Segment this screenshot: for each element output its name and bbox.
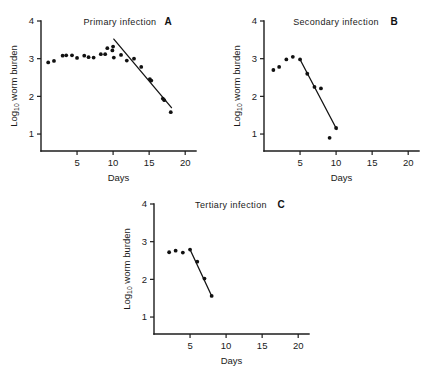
data-point: [174, 249, 178, 253]
x-tick-label-20: 20: [403, 157, 414, 168]
y-axis-title: Log10 worm burden: [8, 45, 20, 127]
regression-line: [190, 250, 212, 296]
y-tick-label-3: 3: [142, 236, 147, 247]
x-tick-label-5: 5: [187, 340, 192, 351]
x-tick-label-10: 10: [221, 340, 232, 351]
data-point: [328, 136, 332, 140]
x-tick-label-5: 5: [297, 157, 302, 168]
data-point: [291, 55, 295, 59]
x-tick-label-20: 20: [293, 340, 304, 351]
data-point: [70, 53, 74, 57]
panel-title-c: Tertiary infection: [195, 200, 267, 210]
data-point: [64, 53, 68, 57]
figure-panels: 12345101520DaysLog10 worm burdenPrimary …: [0, 0, 430, 366]
data-point: [313, 85, 317, 89]
data-point: [125, 59, 129, 63]
regression-line: [300, 59, 337, 129]
data-point: [119, 53, 123, 57]
data-point: [99, 52, 103, 56]
x-axis-title: Days: [331, 172, 353, 183]
y-tick-label-2: 2: [252, 91, 257, 102]
x-tick-label-15: 15: [257, 340, 268, 351]
data-point: [188, 248, 192, 252]
y-tick-label-4: 4: [252, 15, 257, 26]
panel-a-plot: 12345101520DaysLog10 worm burdenPrimary …: [0, 0, 215, 183]
y-axis-title: Log10 worm burden: [121, 228, 133, 310]
y-tick-label-3: 3: [29, 53, 34, 64]
x-tick-label-15: 15: [144, 157, 155, 168]
y-tick-label-4: 4: [142, 198, 147, 209]
y-tick-label-3: 3: [252, 53, 257, 64]
data-point: [111, 45, 115, 49]
panel-title-a: Primary infection: [84, 17, 157, 27]
x-tick-label-15: 15: [367, 157, 378, 168]
data-point: [61, 54, 65, 58]
data-point: [112, 56, 116, 60]
y-axis-title: Log10 worm burden: [231, 45, 243, 127]
panel-a-primary-infection: 12345101520DaysLog10 worm burdenPrimary …: [0, 0, 215, 183]
data-point: [305, 72, 309, 76]
data-point: [149, 79, 153, 83]
data-point: [169, 110, 173, 114]
panel-c-tertiary-infection: 12345101520DaysLog10 worm burdenTertiary…: [113, 183, 328, 366]
y-tick-label-2: 2: [142, 274, 147, 285]
panel-b-secondary-infection: 12345101520DaysLog10 worm burdenSecondar…: [228, 0, 430, 183]
data-point: [167, 250, 171, 254]
x-tick-label-5: 5: [74, 157, 79, 168]
data-point: [52, 59, 56, 63]
y-tick-label-4: 4: [29, 15, 34, 26]
x-axis-title: Days: [221, 355, 243, 366]
data-point: [319, 87, 323, 91]
data-point: [110, 48, 114, 52]
y-axis-title-log: Log: [121, 294, 132, 310]
x-tick-label-10: 10: [331, 157, 342, 168]
data-point: [87, 55, 91, 59]
data-point: [203, 277, 207, 281]
data-point: [139, 65, 143, 69]
data-point: [75, 56, 79, 60]
y-tick-label-1: 1: [252, 128, 257, 139]
data-point: [92, 56, 96, 60]
data-point: [181, 251, 185, 255]
y-tick-label-2: 2: [29, 91, 34, 102]
data-point: [195, 260, 199, 264]
data-point: [271, 68, 275, 72]
panel-letter-a: A: [164, 16, 171, 27]
data-point: [210, 294, 214, 298]
y-tick-label-1: 1: [142, 311, 147, 322]
y-axis-title-rest: worm burden: [231, 45, 242, 103]
y-axis-title-rest: worm burden: [8, 45, 19, 103]
panel-title-b: Secondary infection: [293, 17, 379, 27]
data-point: [277, 65, 281, 69]
x-tick-label-10: 10: [108, 157, 119, 168]
data-point: [82, 54, 86, 58]
data-point: [162, 98, 166, 102]
panel-c-plot: 12345101520DaysLog10 worm burdenTertiary…: [113, 183, 328, 366]
data-point: [103, 52, 107, 56]
y-axis-title-log: Log: [231, 111, 242, 127]
data-point: [334, 126, 338, 130]
data-point: [298, 58, 302, 62]
data-point: [132, 57, 136, 61]
y-tick-label-1: 1: [29, 128, 34, 139]
x-tick-label-20: 20: [180, 157, 191, 168]
data-point: [284, 58, 288, 62]
y-axis-title-rest: worm burden: [121, 228, 132, 286]
panel-b-plot: 12345101520DaysLog10 worm burdenSecondar…: [228, 0, 430, 183]
data-point: [105, 46, 109, 50]
y-axis-title-log: Log: [8, 111, 19, 127]
data-point: [46, 61, 50, 65]
x-axis-title: Days: [108, 172, 130, 183]
panel-letter-b: B: [390, 16, 397, 27]
panel-letter-c: C: [277, 199, 284, 210]
